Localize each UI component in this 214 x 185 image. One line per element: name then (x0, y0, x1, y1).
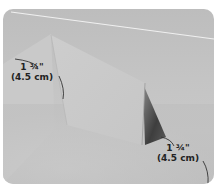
right-dimension-imperial: 1 ¾" (155, 143, 201, 153)
right-dimension-label: 1 ¾" (4.5 cm) (155, 143, 201, 163)
diagonal-edge-line (11, 12, 214, 39)
left-dimension-metric: (4.5 cm) (10, 72, 54, 82)
left-dimension-imperial: 1 ¾" (10, 62, 54, 72)
right-dimension-metric: (4.5 cm) (155, 153, 201, 163)
left-dimension-label: 1 ¾" (4.5 cm) (10, 62, 54, 82)
